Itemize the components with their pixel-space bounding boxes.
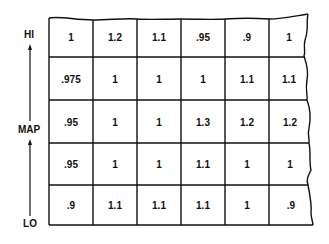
cell-r3-c1: 1: [112, 159, 118, 170]
cell-r2-c5: 1.2: [283, 117, 297, 128]
cell-r1-c2: 1: [156, 74, 162, 85]
cell-r1-c3: 1: [200, 74, 206, 85]
cell-r4-c2: 1.1: [152, 200, 166, 211]
cell-r2-c0: .95: [64, 117, 78, 128]
cell-r0-c2: 1.1: [152, 32, 166, 43]
table-cells: 1 1.2 1.1 .95 .9 1 .975 1 1 1 1.1 1.1 .9…: [61, 32, 297, 211]
cell-r3-c0: .95: [64, 159, 78, 170]
cell-r1-c0: .975: [61, 74, 81, 85]
cell-r4-c1: 1.1: [108, 200, 122, 211]
cell-r0-c0: 1: [68, 32, 74, 43]
cell-r4-c5: .9: [287, 200, 296, 211]
axis-bottom-label: LO: [23, 218, 37, 229]
map-axis: HI MAP LO: [18, 29, 41, 229]
cell-r0-c1: 1.2: [108, 32, 122, 43]
cell-r3-c2: 1: [156, 159, 162, 170]
cell-r2-c3: 1.3: [196, 117, 210, 128]
cell-r3-c3: 1.1: [196, 159, 210, 170]
cell-r2-c1: 1: [112, 117, 118, 128]
cell-r4-c4: 1: [244, 200, 250, 211]
cell-r0-c4: .9: [243, 32, 252, 43]
upper-arrowhead-icon: [28, 44, 32, 50]
lower-arrowhead-icon: [28, 139, 32, 145]
cell-r3-c5: 1: [287, 159, 293, 170]
cell-r0-c3: .95: [196, 32, 210, 43]
cell-r0-c5: 1: [286, 32, 292, 43]
cell-r1-c5: 1.1: [282, 74, 296, 85]
cell-r4-c3: 1.1: [196, 200, 210, 211]
axis-top-label: HI: [24, 29, 34, 40]
cell-r1-c4: 1.1: [240, 74, 254, 85]
table-grid: [49, 14, 313, 225]
map-correction-table-diagram: HI MAP LO 1 1.2 1.1 .9: [0, 0, 329, 244]
torn-right-edge: [304, 14, 313, 225]
cell-r1-c1: 1: [112, 74, 118, 85]
cell-r2-c4: 1.2: [240, 117, 254, 128]
cell-r3-c4: 1: [244, 159, 250, 170]
cell-r2-c2: 1: [156, 117, 162, 128]
axis-label: MAP: [18, 124, 41, 135]
cell-r4-c0: .9: [67, 200, 76, 211]
